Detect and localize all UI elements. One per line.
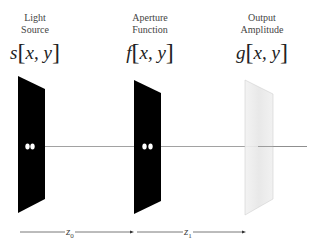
output-plane xyxy=(245,80,273,215)
distance-subscript: 0 xyxy=(70,232,74,240)
z0-arrowhead-icon xyxy=(130,231,134,234)
diagram-canvas xyxy=(0,0,320,241)
distance-label-z0: z0 xyxy=(65,225,75,241)
source-dot-icon xyxy=(25,144,29,150)
z1-arrowhead-icon xyxy=(242,231,246,234)
distance-subscript: 1 xyxy=(188,232,192,240)
aperture-plane xyxy=(134,80,161,214)
source-dot-icon xyxy=(30,144,34,150)
aperture-hole-icon xyxy=(148,144,152,150)
aperture-hole-icon xyxy=(142,144,146,150)
distance-label-z1: z1 xyxy=(183,225,193,241)
